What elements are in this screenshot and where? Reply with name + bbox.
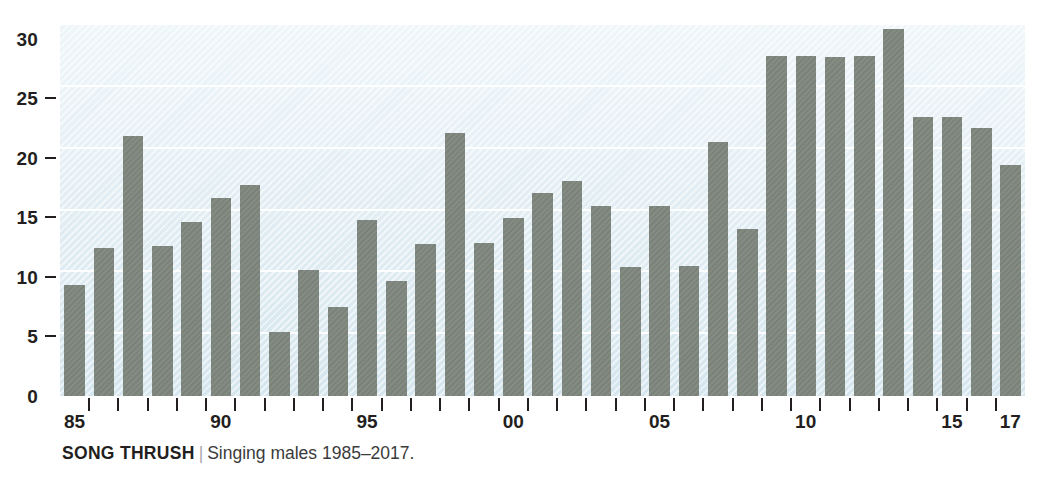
x-axis-tick [293,398,295,411]
bar-slot [674,25,703,396]
bar-slot [499,25,528,396]
bar[interactable] [386,281,406,396]
bar-slot [850,25,879,396]
bar-slot [119,25,148,396]
bar[interactable] [503,218,523,396]
bar[interactable] [474,243,494,396]
y-axis-tick-label: 0 [27,387,38,406]
song-thrush-bar-chart-figure: 0 5 10 15 20 25 30 [0,0,1042,479]
bar-slot [89,25,118,396]
bar[interactable] [357,220,377,396]
bar[interactable] [445,133,465,396]
bar[interactable] [708,142,728,396]
bar[interactable] [562,181,582,396]
x-axis-tick [907,398,909,411]
bar-slot [821,25,850,396]
y-axis: 0 5 10 15 20 25 30 [0,0,60,421]
bar[interactable] [913,117,933,396]
x-axis-tick [88,398,90,411]
bar[interactable] [679,266,699,396]
bar[interactable] [152,246,172,396]
x-axis-tick [439,398,441,411]
bar[interactable] [211,198,231,396]
bar-slot [177,25,206,396]
x-axis-tick [761,398,763,411]
x-axis-tick [790,398,792,411]
x-axis-tick [527,398,529,411]
bar[interactable] [854,56,874,396]
bar-slot [206,25,235,396]
bar-slot [440,25,469,396]
bar[interactable] [298,270,318,396]
bar-slot [265,25,294,396]
bar[interactable] [796,56,816,396]
bar[interactable] [94,248,114,396]
x-axis-tick [615,398,617,411]
bar-slot [762,25,791,396]
bar[interactable] [240,185,260,396]
x-axis-tick [556,398,558,411]
x-axis-label: 17 [1000,412,1021,433]
bar[interactable] [942,117,962,396]
bar[interactable] [181,222,201,396]
x-axis-tick [995,398,997,411]
x-axis-tick [732,398,734,411]
x-axis-tick [849,398,851,411]
bar[interactable] [1000,165,1020,396]
bar[interactable] [591,206,611,396]
bar[interactable] [64,285,84,396]
y-axis-tick-dash [45,157,56,159]
x-axis-tick [351,398,353,411]
bar-slot [411,25,440,396]
x-axis-tick [585,398,587,411]
bar-slot [557,25,586,396]
y-axis-tick-label: 10 [16,268,38,287]
y-axis-tick-dash [45,276,56,278]
bar[interactable] [825,57,845,396]
bar-slot [382,25,411,396]
y-axis-tick-dash [45,335,56,337]
bar[interactable] [269,332,289,396]
y-axis-tick-label: 20 [16,149,38,168]
bar-slot [587,25,616,396]
bar-slot [236,25,265,396]
figure-caption: SONG THRUSH|Singing males 1985–2017. [62,443,414,464]
x-axis-tick [936,398,938,411]
x-axis-tick [264,398,266,411]
caption-subtitle: Singing males 1985–2017. [207,443,414,463]
bar[interactable] [415,244,435,396]
x-axis-tick [322,398,324,411]
x-axis-tick [966,398,968,411]
bar[interactable] [971,128,991,396]
bar-slot [879,25,908,396]
bar[interactable] [328,307,348,396]
plot-area [60,25,1025,396]
x-axis-tick [410,398,412,411]
bar-slot [323,25,352,396]
y-axis-tick-label: 25 [16,89,38,108]
x-axis-tick [702,398,704,411]
bar-slot [528,25,557,396]
x-axis-label: 90 [210,412,231,433]
x-axis-tick [673,398,675,411]
bar-slot [148,25,177,396]
bar[interactable] [123,136,143,396]
bar[interactable] [532,193,552,396]
y-axis-tick-dash [45,216,56,218]
x-axis-tick [147,398,149,411]
x-axis-tick [644,398,646,411]
bar[interactable] [883,29,903,396]
y-axis-tick-label: 5 [27,327,38,346]
bar-slot [294,25,323,396]
bar[interactable] [649,206,669,396]
x-axis-tick [205,398,207,411]
bar-slot [996,25,1025,396]
y-axis-tick-label: 30 [16,30,38,49]
bar[interactable] [766,56,786,396]
bar[interactable] [620,267,640,396]
x-axis-tick [234,398,236,411]
bar-slot [733,25,762,396]
bar[interactable] [737,229,757,396]
y-axis-tick-label: 15 [16,208,38,227]
bar-series [60,25,1025,396]
